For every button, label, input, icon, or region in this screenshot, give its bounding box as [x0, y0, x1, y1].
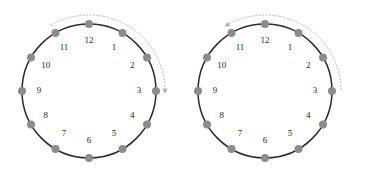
counterclockwise-clock: 121234567891011 — [194, 15, 341, 162]
hour-label-6: 6 — [87, 135, 92, 145]
hour-marker-dot — [328, 87, 336, 95]
hour-label-6: 6 — [263, 135, 268, 145]
hour-marker-dot — [319, 54, 327, 62]
hour-label-4: 4 — [306, 110, 311, 120]
hour-label-10: 10 — [217, 60, 227, 70]
hour-marker-dot — [228, 145, 236, 153]
hour-label-3: 3 — [137, 85, 142, 95]
hour-label-9: 9 — [213, 85, 218, 95]
hour-marker-dot — [143, 121, 151, 129]
hour-label-7: 7 — [62, 128, 67, 138]
hour-marker-dot — [52, 29, 60, 37]
hour-marker-dot — [85, 20, 93, 28]
hour-marker-dot — [119, 145, 127, 153]
hour-label-4: 4 — [130, 110, 135, 120]
hour-marker-dot — [119, 29, 127, 37]
hour-label-5: 5 — [112, 128, 117, 138]
hour-marker-dot — [295, 29, 303, 37]
hour-label-9: 9 — [37, 85, 42, 95]
counterclockwise-arrowhead-icon — [225, 22, 231, 27]
hour-marker-dot — [18, 87, 26, 95]
hour-marker-dot — [27, 54, 35, 62]
hour-marker-dot — [203, 54, 211, 62]
hour-marker-dot — [261, 20, 269, 28]
hour-marker-dot — [319, 121, 327, 129]
hour-label-10: 10 — [41, 60, 51, 70]
hour-marker-dot — [52, 145, 60, 153]
hour-label-8: 8 — [43, 110, 48, 120]
clock-diagram-canvas: 121234567891011121234567891011 — [0, 0, 372, 175]
hour-label-5: 5 — [288, 128, 293, 138]
hour-marker-dot — [295, 145, 303, 153]
hour-marker-dot — [203, 121, 211, 129]
hour-marker-dot — [228, 29, 236, 37]
hour-label-12: 12 — [261, 35, 270, 45]
hour-label-3: 3 — [313, 85, 318, 95]
hour-marker-dot — [152, 87, 160, 95]
hour-label-2: 2 — [306, 60, 311, 70]
hour-label-1: 1 — [112, 42, 117, 52]
hour-label-11: 11 — [60, 42, 69, 52]
hour-marker-dot — [194, 87, 202, 95]
hour-label-8: 8 — [219, 110, 224, 120]
hour-label-1: 1 — [288, 42, 293, 52]
hour-label-2: 2 — [130, 60, 135, 70]
clockwise-arrowhead-icon — [162, 89, 167, 94]
hour-label-7: 7 — [238, 128, 243, 138]
hour-marker-dot — [261, 154, 269, 162]
hour-marker-dot — [143, 54, 151, 62]
hour-marker-dot — [85, 154, 93, 162]
hour-label-11: 11 — [236, 42, 245, 52]
clockwise-clock: 121234567891011 — [18, 15, 168, 162]
hour-marker-dot — [27, 121, 35, 129]
hour-label-12: 12 — [85, 35, 94, 45]
clock-diagram-figure: 121234567891011121234567891011 — [0, 0, 372, 175]
